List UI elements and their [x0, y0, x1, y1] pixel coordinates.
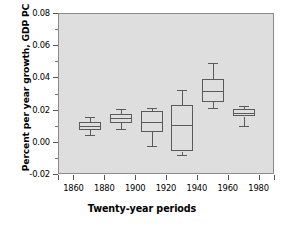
median-line [233, 113, 255, 114]
plot-area [58, 13, 274, 174]
boxplot-item [59, 14, 273, 173]
y-tick-label: 0.06 [4, 40, 50, 50]
x-tick [58, 175, 59, 180]
x-tick [259, 175, 260, 180]
x-tick-label: 1980 [239, 183, 279, 193]
y-tick-label: -0.02 [4, 169, 50, 179]
x-tick [197, 175, 198, 180]
x-tick [228, 175, 229, 180]
whisker-cap-upper [239, 106, 249, 107]
whisker-lower [244, 117, 245, 126]
y-tick-label: 0.00 [4, 137, 50, 147]
boxplot-figure: Percent per year growth, GDP PC -0.020.0… [0, 0, 284, 226]
x-axis-title: Twenty-year periods [0, 203, 284, 214]
y-tick-label: 0.08 [4, 8, 50, 18]
x-tick [104, 175, 105, 180]
y-axis-title: Percent per year growth, GDP PC [20, 3, 31, 173]
whisker-cap-lower [239, 126, 249, 127]
x-tick [73, 175, 74, 180]
x-tick [135, 175, 136, 180]
x-tick [274, 175, 275, 180]
x-tick [166, 175, 167, 180]
y-tick-label: 0.04 [4, 72, 50, 82]
y-tick-label: 0.02 [4, 105, 50, 115]
